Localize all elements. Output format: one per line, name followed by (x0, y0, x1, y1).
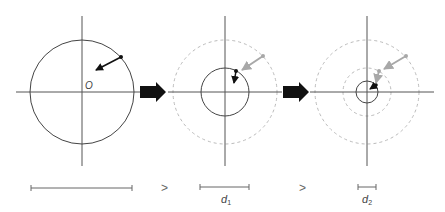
block-arrow-icon (140, 82, 166, 102)
panel-stage-3 (310, 16, 434, 166)
inward-arrow-icon (234, 71, 236, 83)
inward-arrow-icon (370, 85, 376, 89)
diagram-canvas: O > d1 > (0, 0, 445, 212)
block-arrow-icon (283, 82, 309, 102)
d1-label: d1 (221, 193, 231, 206)
inward-arrow-icon (96, 57, 121, 70)
d2-label: d2 (362, 193, 372, 206)
greater-than-symbol: > (299, 181, 306, 195)
panel-stage-1: O (16, 16, 150, 166)
origin-label: O (85, 80, 93, 91)
panel-stage-2 (168, 16, 282, 166)
greater-than-symbol: > (161, 181, 168, 195)
previous-arrow-icon (376, 71, 379, 83)
scale-bar-d2: d2 (358, 184, 376, 206)
scale-bar-d1: d1 (200, 184, 249, 206)
previous-arrow-icon (242, 56, 263, 70)
scale-bar-1 (31, 185, 132, 191)
previous-arrow-icon (384, 56, 406, 69)
